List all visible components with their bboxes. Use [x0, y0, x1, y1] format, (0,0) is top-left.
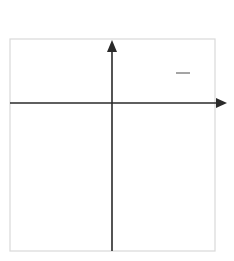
y-axis-arrow-icon	[107, 40, 117, 52]
x-axis-arrow-icon	[216, 98, 227, 108]
parabola-graph	[0, 0, 234, 261]
